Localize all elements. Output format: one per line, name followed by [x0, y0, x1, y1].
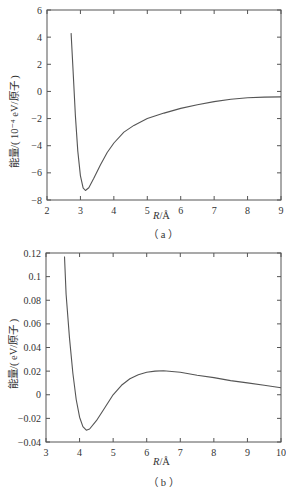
x-tick-label: 4: [111, 205, 116, 216]
x-axis-label-b: R/Å: [153, 456, 170, 467]
y-tick-label: 0.1: [29, 271, 42, 282]
energy-curve: [65, 257, 282, 431]
y-axis-label-b: 能量/( eV/原子 ): [5, 319, 20, 389]
y-tick-label: 0.12: [24, 248, 42, 259]
axis-frame: [47, 10, 281, 200]
y-tick-label: −2: [31, 113, 42, 124]
plot-area-a: 234567896420−2−4−6−8: [0, 0, 286, 248]
x-axis-unit-a: /Å: [159, 210, 170, 221]
x-tick-label: 7: [178, 447, 183, 458]
y-tick-label: −8: [31, 195, 42, 206]
x-tick-label: 3: [78, 205, 83, 216]
plot-area-b: 3456789100.120.10.080.060.040.020−0.02−0…: [0, 245, 286, 494]
x-tick-label: 3: [44, 447, 49, 458]
chart-panel-b: 3456789100.120.10.080.060.040.020−0.02−0…: [0, 245, 286, 494]
x-tick-label: 6: [144, 447, 149, 458]
y-tick-label: −0.04: [18, 437, 41, 448]
x-tick-label: 8: [211, 447, 216, 458]
chart-panel-a: 234567896420−2−4−6−8 能量/( 10⁻⁴ eV/原子 ) R…: [0, 0, 286, 248]
y-tick-label: 2: [37, 59, 42, 70]
caption-a: （ a ）: [148, 226, 178, 241]
x-tick-label: 9: [279, 205, 284, 216]
y-tick-label: 0.08: [24, 295, 42, 306]
y-tick-label: −6: [31, 167, 42, 178]
energy-curve: [71, 33, 281, 190]
y-tick-label: 0.04: [24, 342, 42, 353]
y-tick-label: 0: [36, 389, 41, 400]
y-tick-label: 0: [37, 86, 42, 97]
x-tick-label: 10: [276, 447, 286, 458]
x-tick-label: 4: [77, 447, 82, 458]
x-axis-unit-b: /Å: [159, 456, 170, 467]
y-axis-label-a: 能量/( 10⁻⁴ eV/原子 ): [6, 75, 21, 168]
x-tick-label: 2: [45, 205, 50, 216]
x-axis-label-a: R/Å: [153, 210, 170, 221]
x-tick-label: 8: [245, 205, 250, 216]
y-tick-label: 0.06: [24, 318, 42, 329]
y-tick-label: −0.02: [18, 413, 41, 424]
axis-frame: [46, 253, 281, 442]
y-tick-label: −4: [31, 140, 42, 151]
x-tick-label: 5: [111, 447, 116, 458]
y-tick-label: 4: [37, 32, 42, 43]
x-tick-label: 7: [212, 205, 217, 216]
x-tick-label: 6: [178, 205, 183, 216]
caption-b: （ b ）: [148, 474, 179, 489]
y-tick-label: 0.02: [24, 366, 42, 377]
x-tick-label: 5: [145, 205, 150, 216]
y-tick-label: 6: [37, 5, 42, 16]
x-tick-label: 9: [245, 447, 250, 458]
